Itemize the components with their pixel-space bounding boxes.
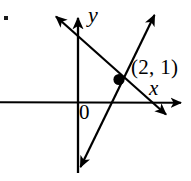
coordinate-plane-figure: y x 0 (2, 1) — [0, 0, 191, 181]
origin-label: 0 — [79, 102, 90, 123]
intersection-point-marker — [113, 74, 124, 85]
x-axis-label: x — [149, 78, 158, 99]
ascending-line — [81, 15, 155, 167]
y-axis-label: y — [88, 4, 98, 26]
graph-canvas — [0, 0, 191, 181]
intersection-point-label: (2, 1) — [131, 57, 178, 78]
